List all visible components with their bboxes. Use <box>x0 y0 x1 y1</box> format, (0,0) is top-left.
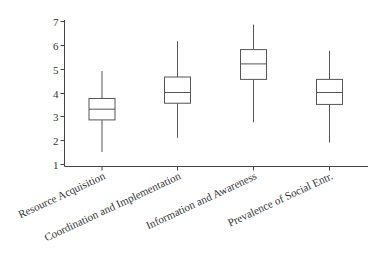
boxes <box>89 25 343 153</box>
y-tick-label: 4 <box>53 88 59 100</box>
category-labels: Resource AcquisitionCoordination and Imp… <box>16 169 334 243</box>
box-2 <box>165 41 191 138</box>
x-axis <box>65 167 369 171</box>
y-tick-label: 7 <box>53 16 59 28</box>
y-tick-label: 1 <box>53 159 59 171</box>
iqr-box <box>165 77 191 103</box>
iqr-box <box>317 79 343 104</box>
iqr-box <box>241 50 267 80</box>
y-tick-label: 6 <box>53 40 59 52</box>
category-label: Coordination and Implementation <box>42 169 183 243</box>
box-4 <box>317 51 343 143</box>
y-tick-label: 2 <box>53 135 59 147</box>
box-plot-chart: 1234567 Resource AcquisitionCoordination… <box>0 0 388 267</box>
y-axis: 1234567 <box>53 16 65 171</box>
box-3 <box>241 25 267 123</box>
box-1 <box>89 71 115 152</box>
y-tick-label: 3 <box>53 111 59 123</box>
y-tick-label: 5 <box>53 64 59 76</box>
